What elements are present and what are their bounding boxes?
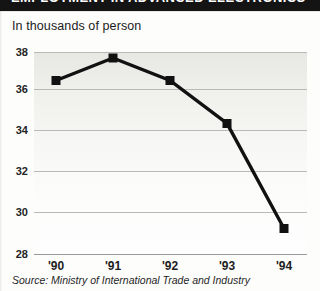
plot-area [34, 52, 307, 255]
y-tick-38: 38 [2, 46, 28, 58]
data-point-marker [109, 54, 118, 63]
data-series-line [34, 52, 307, 255]
banner-shadow [0, 9, 320, 12]
x-tick-93: '93 [207, 259, 247, 273]
y-tick-34: 34 [2, 124, 28, 136]
y-tick-30: 30 [2, 206, 28, 218]
chart-subtitle: In thousands of person [12, 19, 141, 33]
x-tick-92: '92 [150, 259, 190, 273]
y-tick-36: 36 [2, 83, 28, 95]
chart-title: EMPLOYMENT IN ADVANCED ELECTRONICS [11, 0, 306, 5]
data-point-marker [223, 119, 232, 128]
data-point-marker [166, 76, 175, 85]
x-tick-90: '90 [36, 259, 76, 273]
chart-figure: EMPLOYMENT IN ADVANCED ELECTRONICS In th… [0, 0, 320, 291]
data-point-marker [52, 76, 61, 85]
source-note: Source: Ministry of International Trade … [12, 274, 250, 286]
x-tick-91: '91 [93, 259, 133, 273]
y-tick-32: 32 [2, 165, 28, 177]
y-tick-28: 28 [2, 248, 28, 260]
x-tick-94: '94 [264, 259, 304, 273]
data-point-marker [280, 224, 289, 233]
